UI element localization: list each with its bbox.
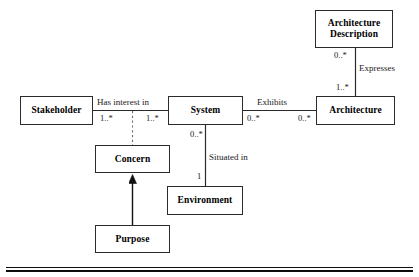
class-box-architecture-description[interactable]: Architecture Description xyxy=(315,10,393,48)
class-label-architecture-description-line1: Architecture xyxy=(325,18,384,29)
association-label-has-interest-in: Has interest in xyxy=(97,98,149,107)
association-label-exhibits: Exhibits xyxy=(257,98,287,107)
multiplicity-architecture-expresses: 1..* xyxy=(336,83,349,92)
class-box-stakeholder[interactable]: Stakeholder xyxy=(20,96,93,125)
class-label-environment: Environment xyxy=(175,195,236,206)
multiplicity-system-has-interest-in: 1..* xyxy=(146,114,159,123)
class-label-stakeholder: Stakeholder xyxy=(28,105,84,116)
class-label-architecture: Architecture xyxy=(326,105,385,116)
multiplicity-system-exhibits: 0..* xyxy=(247,114,260,123)
multiplicity-environment-situated-in: 1 xyxy=(197,172,201,181)
figure-separator-rule-top xyxy=(6,267,413,268)
class-box-purpose[interactable]: Purpose xyxy=(95,225,170,253)
uml-diagram-canvas: Architecture Description Stakeholder Sys… xyxy=(0,0,419,277)
class-label-architecture-description-line2: Description xyxy=(327,29,381,40)
class-box-environment[interactable]: Environment xyxy=(167,186,243,215)
association-label-situated-in: Situated in xyxy=(209,153,248,162)
class-label-concern: Concern xyxy=(112,154,154,165)
multiplicity-architecture-exhibits: 0..* xyxy=(298,114,311,123)
class-box-concern[interactable]: Concern xyxy=(95,145,170,173)
association-label-expresses: Expresses xyxy=(359,64,395,73)
class-label-purpose: Purpose xyxy=(113,234,153,245)
class-box-system[interactable]: System xyxy=(168,96,243,125)
multiplicity-system-situated-in: 0..* xyxy=(190,130,203,139)
class-label-system: System xyxy=(188,105,224,116)
multiplicity-stakeholder-has-interest-in: 1..* xyxy=(100,114,113,123)
class-box-architecture[interactable]: Architecture xyxy=(316,96,395,125)
figure-separator-rule-bottom xyxy=(6,270,413,272)
multiplicity-architecture-description-expresses: 0..* xyxy=(334,51,347,60)
